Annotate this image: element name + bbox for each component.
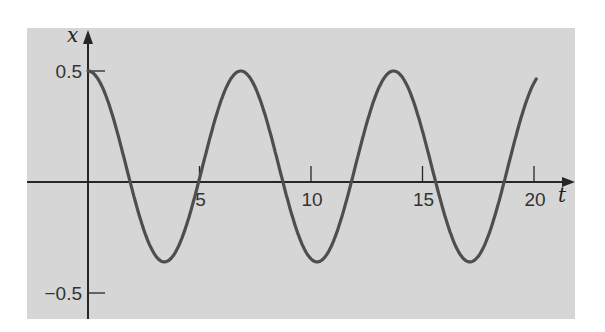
x-axis-label: x xyxy=(67,23,78,47)
x-tick-label: −0.5 xyxy=(44,283,82,304)
t-tick-label: 10 xyxy=(301,189,322,210)
oscillation-chart: 5101520 0.5−0.5 t x xyxy=(0,0,605,332)
t-tick-label: 15 xyxy=(413,189,434,210)
x-tick-label: 0.5 xyxy=(56,61,82,82)
t-axis-label: t xyxy=(558,183,567,207)
t-tick-label: 20 xyxy=(524,189,545,210)
plot-background xyxy=(27,28,575,319)
